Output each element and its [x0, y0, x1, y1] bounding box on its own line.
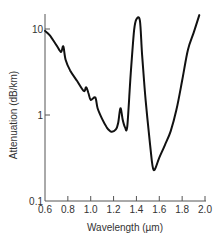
- y-axis-label: Attenuation (dB/km): [8, 71, 19, 159]
- x-tick-label: 1.4: [129, 204, 143, 215]
- y-tick-label: 0.1: [29, 196, 43, 207]
- x-tick-label: 0.8: [61, 204, 75, 215]
- y-tick-label: 1: [37, 110, 43, 121]
- x-axis-label: Wavelength (µm): [87, 222, 163, 233]
- x-tick-label: 1.0: [84, 204, 98, 215]
- tick-marks: [45, 29, 205, 201]
- axes: [45, 14, 206, 201]
- x-tick-label: 1.8: [175, 204, 189, 215]
- chart-canvas: 0.60.81.01.21.41.61.82.01010.1 Wavelengt…: [0, 0, 217, 240]
- x-tick-label: 2.0: [198, 204, 212, 215]
- y-tick-label: 10: [32, 24, 44, 35]
- attenuation-curve: [45, 15, 199, 170]
- attenuation-chart: 0.60.81.01.21.41.61.82.01010.1 Wavelengt…: [0, 0, 217, 240]
- x-tick-label: 1.2: [107, 204, 121, 215]
- x-tick-label: 1.6: [152, 204, 166, 215]
- tick-labels: 0.60.81.01.21.41.61.82.01010.1: [29, 24, 212, 216]
